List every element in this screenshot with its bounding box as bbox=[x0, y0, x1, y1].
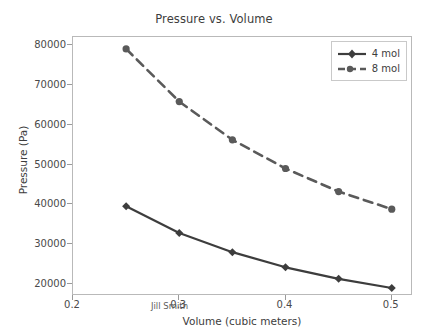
data-point-marker bbox=[123, 45, 130, 52]
legend-swatch-4-mol bbox=[337, 48, 367, 60]
legend-item-series-1: 8 mol bbox=[337, 61, 400, 76]
data-point-marker bbox=[282, 165, 289, 172]
y-tick-label: 80000 bbox=[14, 38, 66, 49]
legend-label-8-mol: 8 mol bbox=[372, 63, 400, 74]
y-tick-label: 50000 bbox=[14, 158, 66, 169]
y-tick-label: 20000 bbox=[14, 278, 66, 289]
series-line-0 bbox=[126, 206, 392, 288]
data-point-marker bbox=[176, 98, 183, 105]
data-point-marker bbox=[335, 188, 342, 195]
data-point-marker bbox=[122, 202, 130, 210]
data-point-marker bbox=[282, 263, 290, 271]
data-point-marker bbox=[388, 206, 395, 213]
data-point-marker bbox=[388, 284, 396, 292]
chart-legend: 4 mol 8 mol bbox=[331, 41, 407, 81]
data-point-marker bbox=[175, 229, 183, 237]
data-point-marker bbox=[335, 275, 343, 283]
data-point-marker bbox=[228, 248, 236, 256]
legend-label-4-mol: 4 mol bbox=[372, 48, 400, 59]
y-tick-label: 70000 bbox=[14, 78, 66, 89]
y-tick-label: 40000 bbox=[14, 198, 66, 209]
plot-area: Jill Smith 4 mol 8 mol bbox=[72, 36, 412, 295]
y-tick-label: 60000 bbox=[14, 118, 66, 129]
legend-swatch-8-mol bbox=[337, 63, 367, 75]
data-point-marker bbox=[229, 136, 236, 143]
y-tick-label: 30000 bbox=[14, 238, 66, 249]
x-tick-label: 0.5 bbox=[363, 299, 419, 310]
x-axis-label: Volume (cubic meters) bbox=[72, 315, 412, 327]
chart-figure: Pressure vs. Volume Pressure (Pa) Volume… bbox=[0, 0, 428, 336]
x-tick-label: 0.2 bbox=[44, 299, 100, 310]
watermark-annotation: Jill Smith bbox=[151, 301, 188, 311]
y-axis-tick-labels: 20000300004000050000600007000080000 bbox=[8, 0, 66, 336]
legend-item-series-0: 4 mol bbox=[337, 46, 400, 61]
x-tick-label: 0.4 bbox=[257, 299, 313, 310]
